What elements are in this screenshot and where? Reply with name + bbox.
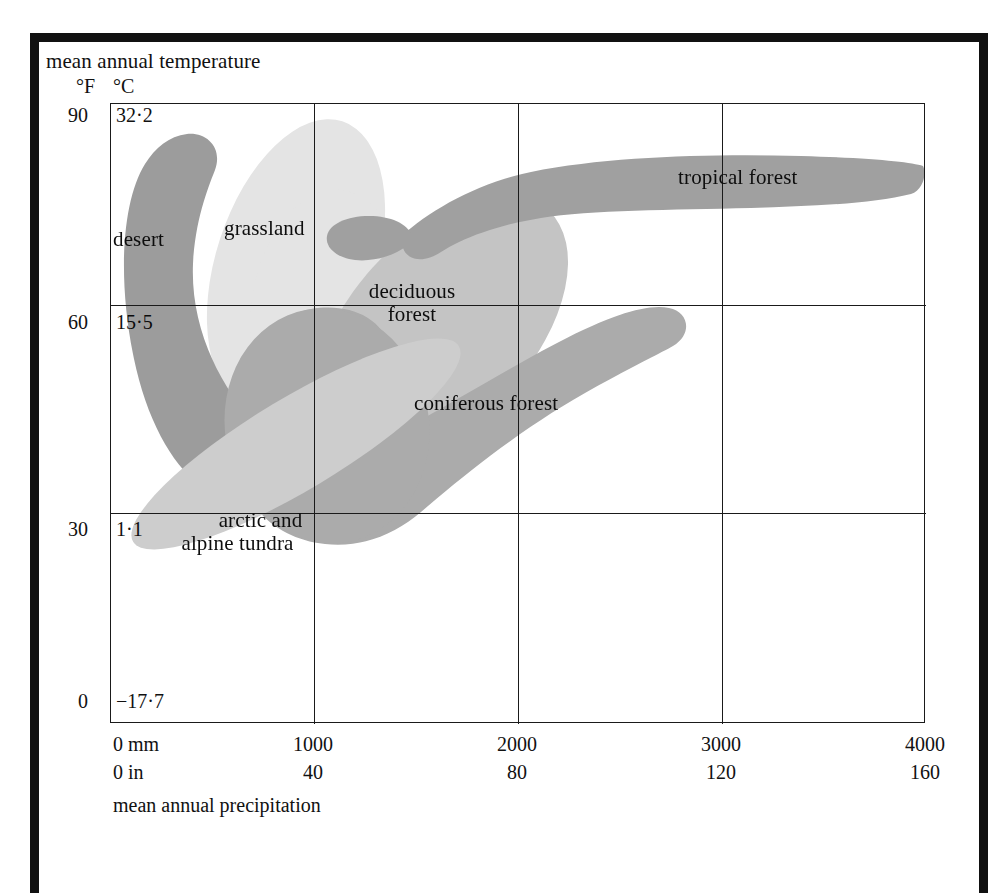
region-label-coniferous-forest: coniferous forest (414, 392, 558, 415)
x-tick-in-80: 80 (467, 761, 567, 784)
region-label-deciduous-forest-line1: deciduous (369, 279, 456, 303)
y-axis-title: mean annual temperature (46, 49, 261, 74)
x-tick-mm-4000: 4000 (875, 733, 975, 756)
x-axis-title: mean annual precipitation (113, 794, 321, 817)
y-axis-unit-celsius: °C (113, 75, 134, 98)
y-tick-fahrenheit-0: 0 (46, 690, 88, 713)
region-label-grassland: grassland (224, 217, 305, 240)
x-tick-mm-1000: 1000 (263, 733, 363, 756)
region-label-deciduous-forest: deciduous forest (352, 280, 472, 325)
gridline-x-3000 (722, 104, 723, 724)
gridline-y-60 (111, 305, 926, 306)
region-label-arctic-alpine-tundra: arctic and alpine tundra (150, 509, 325, 554)
x-tick-mm-3000: 3000 (671, 733, 771, 756)
y-axis-unit-fahrenheit: °F (76, 75, 95, 98)
x-tick-mm-2000: 2000 (467, 733, 567, 756)
x-tick-in-0: 0 in (113, 761, 144, 784)
y-tick-fahrenheit-90: 90 (46, 104, 88, 127)
x-tick-in-40: 40 (263, 761, 363, 784)
region-label-desert: desert (113, 228, 164, 251)
x-tick-in-160: 160 (875, 761, 975, 784)
region-label-tropical-forest: tropical forest (678, 166, 797, 189)
region-label-tundra-line2: alpine tundra (181, 531, 293, 555)
x-tick-mm-0: 0 mm (113, 733, 159, 756)
gridline-x-1000 (314, 104, 315, 724)
y-tick-fahrenheit-60: 60 (46, 311, 88, 334)
y-tick-fahrenheit-30: 30 (46, 518, 88, 541)
region-label-tundra-line1: arctic and (219, 509, 303, 532)
region-label-deciduous-forest-line2: forest (388, 302, 437, 326)
x-tick-in-120: 120 (671, 761, 771, 784)
